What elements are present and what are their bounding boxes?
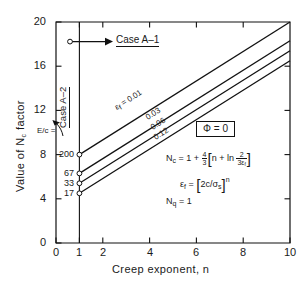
equation-eps-exponent: n [226, 176, 230, 183]
case-a-1-arrowhead [105, 38, 113, 46]
equation-nc-inner-den-subscript: f [244, 161, 245, 167]
y-tick-label-16: 16 [22, 59, 46, 71]
x-tick-label-1: 1 [69, 246, 89, 258]
x-tick-label-8: 8 [233, 246, 253, 258]
equation-nc-inner-fraction-denominator: 3εf [236, 159, 246, 167]
e-over-c-value-17: 17 [42, 188, 74, 198]
curve-eps-0-12 [79, 61, 290, 194]
y-tick-label-20: 20 [22, 15, 46, 27]
equation-nc-inner-fraction-numerator: 2 [236, 151, 246, 159]
e-over-c-value-67: 67 [42, 168, 74, 178]
nc-factor-chart: 20 16 12 8 4 0 0 1 2 4 6 8 10 Creep expo… [0, 0, 303, 286]
x-axis-ticks [56, 22, 290, 243]
x-tick-label-6: 6 [186, 246, 206, 258]
y-axis-title-text: Value of N [14, 137, 26, 192]
y-axis-ticks [56, 22, 290, 243]
case-a-2-label: Case A–2 [57, 87, 70, 128]
equation-eps-lhs-subscript: f [184, 183, 186, 190]
e-over-c-label: E/c = [37, 126, 55, 135]
equation-nq-lhs-subscript: q [173, 200, 177, 207]
x-tick-label-10: 10 [280, 246, 300, 258]
case-a-1-label: Case A–1 [116, 34, 159, 47]
equation-nq-equals: = 1 [179, 196, 192, 206]
case-a-1-text: Case A–1 [116, 34, 159, 45]
equation-nc: Nc = 1 + 4 3 [n + ln 2 3εf ] [166, 150, 251, 167]
x-tick-label-0: 0 [46, 246, 66, 258]
y-axis-title-text-2: factor [14, 100, 26, 133]
y-tick-label-0: 0 [22, 236, 46, 248]
e-over-c-text: E/c = [37, 126, 55, 135]
case-a-2-text: Case A–2 [57, 87, 68, 128]
phi-equals-zero-box: Φ = 0 [196, 118, 235, 136]
equation-eps-body: 2c/σ [200, 179, 218, 189]
equation-eps-equals: = [188, 179, 193, 189]
equation-nc-inner-fraction: 2 3εf [236, 151, 246, 168]
axis-frame [56, 22, 290, 243]
x-tick-label-4: 4 [140, 246, 160, 258]
curve-group [79, 22, 290, 193]
equation-nq: Nq = 1 [166, 196, 192, 207]
x-axis-title: Creep exponent, n [112, 263, 209, 275]
equation-nc-lhs-subscript: c [173, 157, 177, 164]
equation-nc-bracket-close: ] [247, 150, 251, 167]
case-a-1-marker [68, 39, 73, 44]
equation-nc-equals: = 1 + [179, 153, 200, 163]
e-over-c-value-200: 200 [42, 149, 74, 159]
y-axis-title-subscript: c [20, 134, 27, 138]
e-over-c-value-33: 33 [42, 178, 74, 188]
equation-nc-inner: n + ln [212, 153, 234, 163]
y-axis-title: Value of Nc factor [14, 100, 27, 192]
phi-equals-zero-text: Φ = 0 [196, 121, 235, 137]
x-tick-label-2: 2 [93, 246, 113, 258]
equation-eps-f: εf = [2c/σs]n [180, 176, 230, 193]
